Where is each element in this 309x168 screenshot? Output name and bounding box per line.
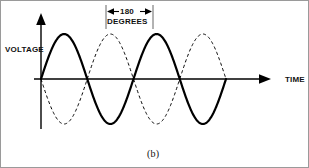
annotation-value: 180 xyxy=(120,7,134,16)
annotation-unit: DEGREES xyxy=(107,17,148,26)
figure-caption: (b) xyxy=(147,148,159,159)
up-arrow-icon xyxy=(36,13,46,25)
x-axis xyxy=(34,74,271,84)
right-arrow-icon xyxy=(259,74,271,84)
waveform-plot xyxy=(1,1,308,167)
x-axis-label: TIME xyxy=(285,75,305,84)
dimension-arrow-left-icon xyxy=(107,8,114,14)
waveform-figure: VOLTAGE TIME 180 DEGREES (b) xyxy=(0,0,309,168)
y-axis-label: VOLTAGE xyxy=(5,45,44,54)
dimension-arrow-right-icon xyxy=(145,8,152,14)
